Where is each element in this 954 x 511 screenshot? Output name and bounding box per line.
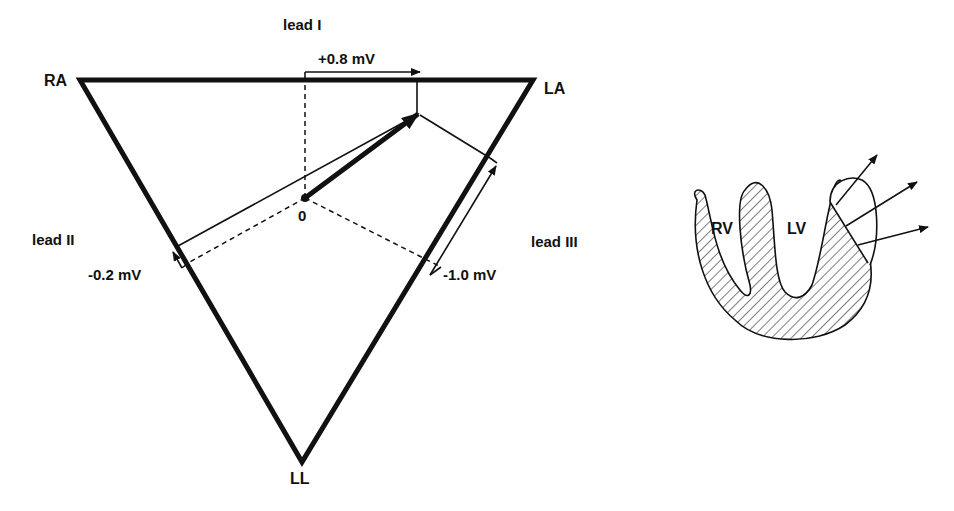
lead-iii-projection (305, 115, 497, 275)
lead-ii-value: -0.2 mV (88, 266, 141, 283)
einthoven-triangle-diagram (0, 0, 954, 511)
heart-cross-section (695, 155, 928, 339)
lead-ii-label: lead II (32, 231, 75, 248)
lead-ii-projection (173, 115, 417, 268)
mean-vector-arrow (301, 114, 418, 202)
lv-label: LV (787, 220, 806, 238)
lead-iii-value: -1.0 mV (443, 266, 496, 283)
lead-iii-label: lead III (531, 233, 578, 250)
lead-i-value: +0.8 mV (318, 50, 375, 67)
origin-label: 0 (298, 207, 306, 224)
rv-label: RV (711, 220, 733, 238)
lead-i-label: lead I (283, 16, 321, 33)
lead-i-projection (305, 72, 420, 198)
vertex-label-ra: RA (44, 72, 67, 90)
vertex-label-ll: LL (290, 470, 310, 488)
vertex-label-la: LA (544, 80, 565, 98)
